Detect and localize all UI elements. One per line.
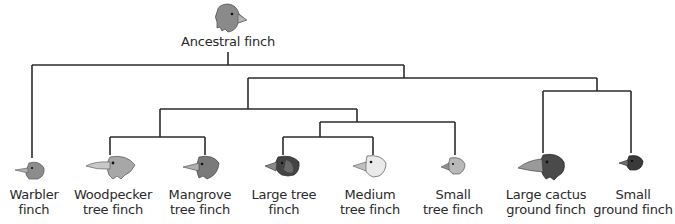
label-line-2: tree finch — [74, 202, 152, 217]
medium-tree-finch-head-icon — [353, 156, 386, 177]
label-line-1: Mangrove — [169, 187, 232, 202]
woodpecker-finch-head-icon — [86, 156, 135, 179]
label-line-1: Warbler — [9, 187, 58, 202]
tree-branches — [32, 52, 631, 158]
ancestral-finch-label: Ancestral finch — [181, 34, 275, 49]
species-label-large-tree: Large tree finch — [252, 187, 317, 217]
label-line-1: Large cactus — [506, 187, 587, 202]
label-line-1: Woodpecker — [74, 187, 152, 202]
label-line-2: finch — [252, 202, 317, 217]
label-line-2: tree finch — [169, 202, 232, 217]
large-cactus-ground-finch-head-icon — [518, 154, 564, 180]
species-label-medium-tree: Medium tree finch — [340, 187, 400, 217]
small-ground-finch-head-icon — [619, 156, 643, 170]
label-line-2: ground finch — [593, 202, 673, 217]
label-line-1: Small — [423, 187, 483, 202]
label-line-1: Large tree — [252, 187, 317, 202]
label-line-2: tree finch — [340, 202, 400, 217]
species-label-large-cactus-ground: Large cactus ground finch — [506, 187, 587, 217]
label-line-2: tree finch — [423, 202, 483, 217]
label-line-1: Medium — [340, 187, 400, 202]
mangrove-finch-head-icon — [183, 156, 219, 179]
species-label-mangrove: Mangrove tree finch — [169, 187, 232, 217]
label-line-1: Small — [593, 187, 673, 202]
label-line-2: ground finch — [506, 202, 587, 217]
small-tree-finch-head-icon — [441, 158, 465, 174]
label-line-2: finch — [9, 202, 58, 217]
species-label-small-ground: Small ground finch — [593, 187, 673, 217]
species-label-warbler: Warbler finch — [9, 187, 58, 217]
warbler-finch-head-icon — [15, 162, 44, 179]
species-label-small-tree: Small tree finch — [423, 187, 483, 217]
ancestral-finch-head-icon — [216, 4, 248, 32]
species-label-woodpecker: Woodpecker tree finch — [74, 187, 152, 217]
large-tree-finch-head-icon — [265, 156, 299, 176]
